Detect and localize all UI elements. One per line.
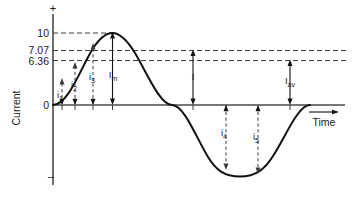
origin-label: 0: [43, 99, 49, 111]
annotation-label-I-rms: I: [192, 71, 195, 82]
y-axis-tick-labels: 10 7.07 6.36: [29, 27, 50, 67]
annotation-label-Im: Im: [109, 69, 118, 82]
x-axis-title: Time: [313, 116, 336, 128]
annotation-label-i3: i3: [89, 71, 95, 84]
current-waveform-figure: 10 7.07 6.36 + – 0 Current Time: [0, 0, 356, 216]
y-axis-title: Current: [10, 90, 22, 125]
negative-sign-label: –: [48, 170, 55, 182]
y-tick-label-average: 6.36: [29, 55, 50, 67]
annotation-Im: Im: [109, 32, 118, 105]
annotation-i4: i4: [221, 105, 229, 170]
axes-group: [53, 14, 345, 185]
annotation-label-i5: i5: [253, 131, 259, 144]
annotation-label-i4: i4: [221, 127, 227, 140]
annotation-Iav: Iav: [285, 60, 296, 106]
reference-lines-group: [53, 33, 348, 61]
positive-sign-label: +: [50, 2, 56, 14]
time-axis-arrow: [309, 109, 338, 114]
y-tick-label-peak: 10: [37, 27, 49, 39]
annotation-i5: i5: [253, 105, 261, 174]
annotation-I-rms: I: [191, 50, 196, 106]
annotation-i1: i1: [57, 78, 65, 105]
